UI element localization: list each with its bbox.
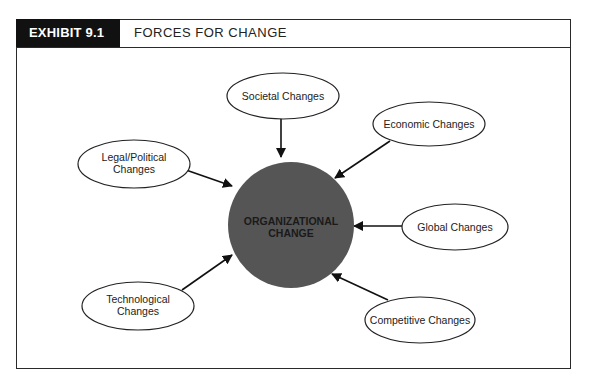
node-societal-changes: Societal Changes bbox=[227, 73, 339, 119]
node-label: Economic Changes bbox=[383, 118, 474, 130]
node-label-line1: Legal/Political bbox=[102, 151, 167, 163]
node-label-line1: Technological bbox=[106, 293, 170, 305]
center-node-organizational-change: ORGANIZATIONAL CHANGE bbox=[228, 162, 354, 288]
node-label: Competitive Changes bbox=[370, 314, 470, 326]
arrow-technological bbox=[182, 255, 232, 290]
node-competitive-changes: Competitive Changes bbox=[365, 297, 475, 343]
node-label: Societal Changes bbox=[242, 90, 324, 102]
center-label-line2: CHANGE bbox=[268, 227, 314, 239]
node-economic-changes: Economic Changes bbox=[373, 102, 485, 146]
center-label-line1: ORGANIZATIONAL bbox=[244, 215, 339, 227]
arrow-legal bbox=[186, 170, 232, 186]
forces-diagram: ORGANIZATIONAL CHANGE Societal Changes E… bbox=[0, 0, 594, 386]
node-label: Global Changes bbox=[417, 221, 492, 233]
node-label-line2: Changes bbox=[117, 305, 159, 317]
node-label-line2: Changes bbox=[113, 163, 155, 175]
node-technological-changes: Technological Changes bbox=[82, 282, 194, 330]
node-legal-political-changes: Legal/Political Changes bbox=[78, 140, 190, 188]
node-global-changes: Global Changes bbox=[402, 204, 508, 250]
arrow-economic bbox=[335, 141, 390, 178]
arrow-competitive bbox=[332, 274, 388, 300]
